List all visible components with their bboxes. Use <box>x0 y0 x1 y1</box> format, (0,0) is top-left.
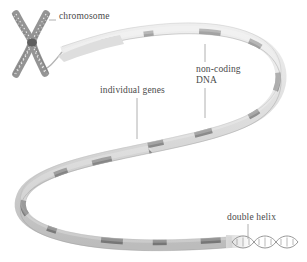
ribbon-highlight <box>20 26 281 243</box>
centromere <box>27 39 37 47</box>
label-double-helix: double helix <box>227 212 276 223</box>
label-chromosome: chromosome <box>59 11 110 22</box>
label-noncoding-dna: non-codingDNA <box>196 64 241 86</box>
label-individual-genes: individual genes <box>100 85 165 96</box>
x-shaped-chromosome <box>12 13 50 75</box>
chromosome-dna-diagram: chromosome individual genes non-codingDN… <box>0 0 307 262</box>
label-noncoding-dna-line1: non-coding <box>196 64 241 74</box>
label-noncoding-dna-line2: DNA <box>196 75 217 85</box>
